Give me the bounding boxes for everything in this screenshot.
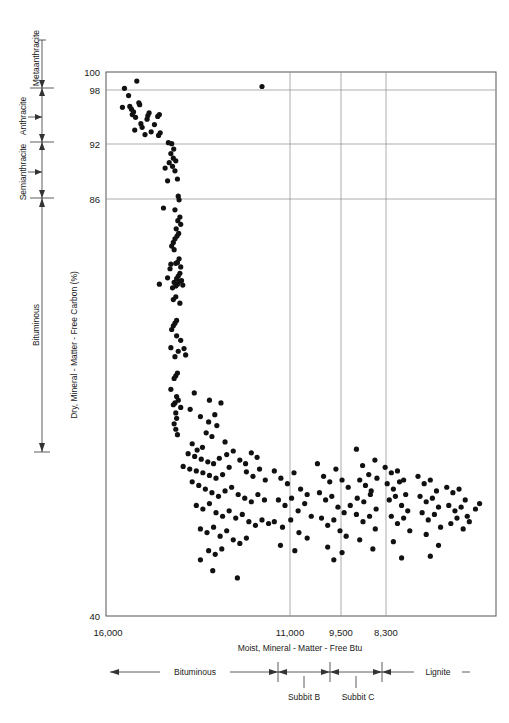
scatter-point [207, 501, 212, 506]
bottom-rank-arrow-subbitb-right [321, 669, 330, 675]
bottom-rank-axis: Bituminous Lignite Subbit B Subbit C [110, 662, 470, 702]
scatter-point [163, 166, 168, 171]
scatter-point [190, 441, 195, 446]
scatter-point [385, 481, 390, 486]
scatter-point [224, 528, 229, 533]
scatter-point [387, 497, 392, 502]
scatter-point [357, 537, 362, 542]
scatter-point [249, 450, 254, 455]
scatter-point [206, 419, 211, 424]
scatter-point [296, 508, 301, 513]
scatter-point [178, 338, 183, 343]
scatter-point [438, 525, 443, 530]
scatter-point [302, 501, 307, 506]
scatter-point [296, 530, 301, 535]
scatter-point [156, 133, 161, 138]
scatter-point [231, 537, 236, 542]
scatter-point [199, 457, 204, 462]
left-rank-arrow-bituminous-up [39, 198, 45, 207]
scatter-point [204, 430, 209, 435]
scatter-point [465, 514, 470, 519]
scatter-point [319, 515, 324, 520]
scatter-point [383, 465, 388, 470]
scatter-point [200, 445, 205, 450]
scatter-point [374, 476, 379, 481]
bottom-rank-arrow-bituminous-right [269, 669, 278, 675]
scatter-point [198, 557, 203, 562]
scatter-point [244, 469, 249, 474]
scatter-point [194, 468, 199, 473]
scatter-point [192, 454, 197, 459]
scatter-point [140, 125, 145, 130]
scatter-point [183, 352, 188, 357]
scatter-point [259, 84, 264, 89]
scatter-point [227, 508, 232, 513]
left-rank-label-semianthracite: Semianthracite [18, 143, 28, 200]
scatter-point [354, 447, 359, 452]
scatter-point [401, 515, 406, 520]
scatter-point [257, 467, 262, 472]
scatter-point [237, 541, 242, 546]
bottom-rank-arrow-lignite-left [382, 669, 391, 675]
ytick-label-100: 100 [84, 67, 100, 78]
scatter-point [325, 544, 330, 549]
scatter-point [180, 282, 185, 287]
scatter-point [172, 376, 177, 381]
scatter-point [220, 472, 225, 477]
scatter-point [165, 275, 170, 280]
scatter-point [174, 226, 179, 231]
scatter-point [211, 525, 216, 530]
scatter-point [397, 479, 402, 484]
scatter-point [456, 486, 461, 491]
left-rank-arrow-bituminous-down [39, 443, 45, 452]
scatter-point [337, 528, 342, 533]
scatter-point [333, 467, 338, 472]
scatter-point [246, 519, 251, 524]
scatter-point [291, 470, 296, 475]
scatter-point [288, 517, 293, 522]
scatter-point [250, 474, 255, 479]
scatter-point [331, 557, 336, 562]
scatter-point [198, 526, 203, 531]
scatter-point [235, 575, 240, 580]
scatter-point [367, 514, 372, 519]
scatter-points-layer [120, 78, 482, 580]
scatter-point [463, 497, 468, 502]
scatter-point [194, 503, 199, 508]
scatter-point [426, 517, 431, 522]
ytick-label-86: 86 [89, 194, 100, 205]
scatter-point [237, 457, 242, 462]
scatter-point [393, 494, 398, 499]
scatter-point [461, 526, 466, 531]
scatter-point [292, 548, 297, 553]
scatter-point [174, 333, 179, 338]
scatter-point [305, 492, 310, 497]
scatter-point [152, 122, 157, 127]
scatter-point [216, 494, 221, 499]
scatter-point [266, 521, 271, 526]
scatter-point [233, 515, 238, 520]
scatter-point [276, 497, 281, 502]
scatter-point [272, 519, 277, 524]
scatter-point [339, 477, 344, 482]
scatter-point [467, 519, 472, 524]
bottom-rank-label-subbit-b: Subbit B [288, 692, 320, 702]
scatter-point [195, 447, 200, 452]
scatter-point [168, 262, 173, 267]
scatter-point [370, 546, 375, 551]
bottom-rank-arrow-subbitb-left [278, 669, 287, 675]
scatter-point [149, 129, 154, 134]
scatter-point [243, 461, 248, 466]
scatter-point [368, 492, 373, 497]
scatter-point [399, 555, 404, 560]
scatter-point [178, 264, 183, 269]
scatter-point [403, 492, 408, 497]
coal-rank-scatter-figure: 100 98 92 86 40 16,000 11,000 9,500 8,30… [0, 0, 509, 723]
scatter-point [360, 519, 365, 524]
scatter-point [173, 410, 178, 415]
scatter-point [137, 102, 142, 107]
y-axis-title: Dry, Mineral - Matter - Free Carbon (%) [69, 271, 79, 419]
scatter-point [253, 523, 258, 528]
scatter-point [171, 146, 176, 151]
xtick-label-9500: 9,500 [329, 627, 353, 638]
